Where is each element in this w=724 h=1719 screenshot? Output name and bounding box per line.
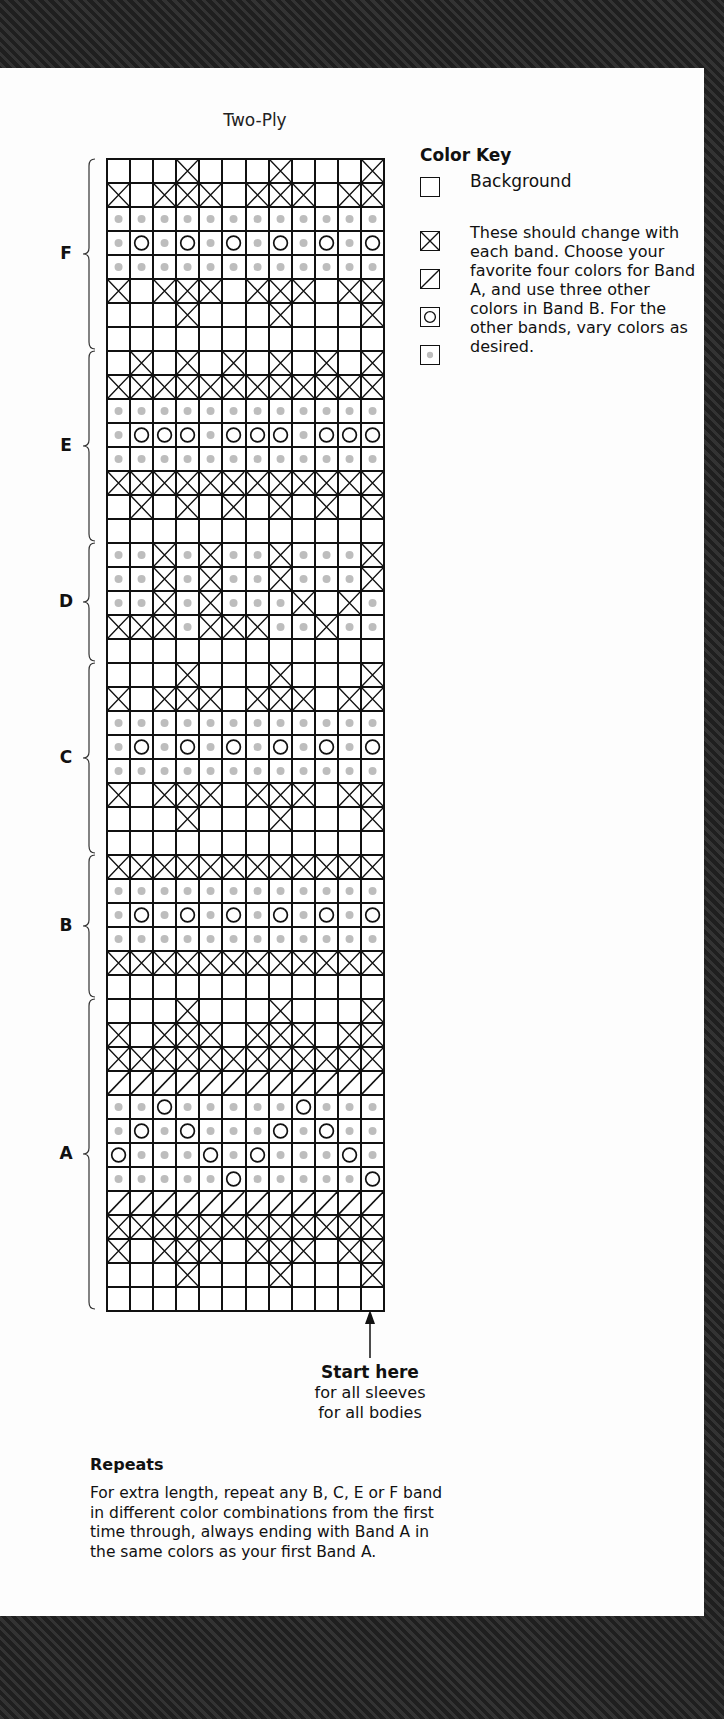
x-box-cell [221,1214,244,1238]
repeats-section: Repeats For extra length, repeat any B, … [90,1455,450,1562]
x-box-cell [268,566,291,590]
dot-box-cell [245,206,268,230]
dot-box-cell [106,926,129,950]
background-cell [291,638,314,662]
background-cell [106,1286,129,1310]
background-cell [198,1286,221,1310]
x-box-cell [152,614,175,638]
x-box-cell [175,494,198,518]
x-box-cell [314,1214,337,1238]
dot-box-cell [221,878,244,902]
dot-box-cell [129,446,152,470]
circle-box-cell [268,734,291,758]
dot-box-cell [175,758,198,782]
circle-box-cell [314,734,337,758]
background-cell [337,974,360,998]
background-cell [129,1262,152,1286]
x-box-cell [198,1022,221,1046]
x-box-cell [106,1022,129,1046]
x-box-cell [175,182,198,206]
x-box-cell [314,374,337,398]
circle-box-cell [360,422,383,446]
background-cell [106,1262,129,1286]
x-box-cell [152,278,175,302]
background-cell [106,326,129,350]
dot-box-cell [198,422,221,446]
x-box-cell [360,182,383,206]
dot-box-cell [106,902,129,926]
slash-box-cell [175,1070,198,1094]
dot-box-cell [198,926,221,950]
background-cell [198,494,221,518]
band-label-d: D [56,591,76,611]
dot-box-cell [175,590,198,614]
x-box-cell [175,350,198,374]
x-box-cell [337,686,360,710]
dot-box-cell [198,1118,221,1142]
dot-box-cell [268,398,291,422]
x-box-cell [268,782,291,806]
dot-box-cell [291,734,314,758]
x-box-cell [360,470,383,494]
dot-box-cell [268,1142,291,1166]
slash-box-cell [291,1070,314,1094]
x-box-cell [314,494,337,518]
band-label-f: F [56,243,76,263]
dot-box-cell [175,1142,198,1166]
x-box-cell [314,614,337,638]
circle-box-cell [129,734,152,758]
background-cell [314,518,337,542]
dot-box-cell [221,446,244,470]
dot-box-cell [245,398,268,422]
background-cell [314,590,337,614]
dot-box-cell [129,398,152,422]
background-cell [291,806,314,830]
circle-box-cell [175,1118,198,1142]
x-box-cell [221,1046,244,1070]
dot-box-cell [337,1118,360,1142]
background-cell [337,350,360,374]
x-box-cell [360,566,383,590]
dot-box-cell [291,422,314,446]
x-box-cell [360,158,383,182]
dot-box-cell [129,758,152,782]
background-cell [198,998,221,1022]
dot-box-cell [291,566,314,590]
background-cell [221,518,244,542]
x-box-cell [268,350,291,374]
dot-box-cell [291,446,314,470]
dot-box-cell [268,878,291,902]
dot-box-cell [198,398,221,422]
x-box-cell [129,1046,152,1070]
slash-box-cell [152,1190,175,1214]
x-box-cell [314,350,337,374]
dot-box-cell [268,446,291,470]
dot-box-cell [360,1094,383,1118]
background-cell [337,1286,360,1310]
dot-box-cell [221,1094,244,1118]
dot-box-cell [337,878,360,902]
x-box-cell [360,998,383,1022]
band-label-a: A [56,1143,76,1163]
slash-box-cell [106,1190,129,1214]
circle-box-cell [337,1142,360,1166]
background-cell [314,638,337,662]
dot-box-cell [314,254,337,278]
x-box-cell [337,470,360,494]
x-box-cell [198,614,221,638]
x-box-cell [245,374,268,398]
background-cell [152,158,175,182]
band-brace-icon [82,662,96,854]
x-box-cell [175,278,198,302]
dot-box-cell [198,902,221,926]
x-box-cell [175,686,198,710]
circle-box-cell [360,230,383,254]
background-cell [198,638,221,662]
background-cell [106,302,129,326]
x-box-cell [198,566,221,590]
dot-box-cell [152,758,175,782]
dot-box-cell [198,206,221,230]
start-line-1: for all sleeves [315,1383,426,1402]
background-cell [198,302,221,326]
x-box-cell [152,182,175,206]
